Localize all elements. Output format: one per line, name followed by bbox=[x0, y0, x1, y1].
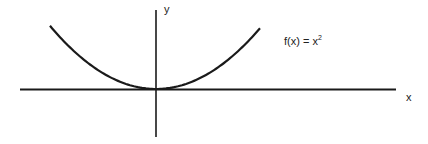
parabola-curve bbox=[50, 26, 260, 89]
parabola-graph bbox=[0, 0, 428, 144]
function-label-base: f(x) = x bbox=[284, 35, 318, 47]
x-axis-label: x bbox=[406, 91, 412, 103]
function-label-exponent: 2 bbox=[318, 34, 322, 41]
y-axis-label: y bbox=[164, 3, 170, 15]
function-label: f(x) = x2 bbox=[284, 34, 322, 47]
